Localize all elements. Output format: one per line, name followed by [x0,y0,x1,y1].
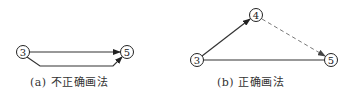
node-a-3: 3 [17,46,30,59]
edge-b-3-4 [202,19,250,56]
diagram-a: 3 5 [17,46,134,67]
svg-text:4: 4 [253,10,259,21]
node-b-3: 3 [191,54,204,67]
node-b-5: 5 [325,54,338,67]
node-a-5: 5 [121,46,134,59]
edge-b-4-5-dashed [262,19,325,56]
svg-text:5: 5 [124,47,130,58]
diagram-b: 3 4 5 [191,9,338,67]
caption-b: (b) 正确画法 [217,73,284,89]
node-b-4: 4 [250,9,263,22]
svg-text:5: 5 [328,55,334,66]
svg-text:3: 3 [20,47,26,58]
svg-text:3: 3 [194,55,200,66]
edge-a-3-5-bent [27,57,122,66]
caption-a: (a) 不正确画法 [30,73,108,89]
